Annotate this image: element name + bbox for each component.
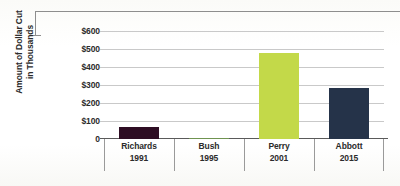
y-axis-tick-label: $200 (56, 99, 100, 108)
y-axis-tick-labels: 0$100$200$300$400$500$600 (56, 28, 100, 146)
category-name: Richards (104, 141, 174, 153)
category-name: Bush (174, 141, 244, 153)
x-axis-category-label: Perry2001 (244, 141, 314, 164)
category-name: Abbott (314, 141, 384, 153)
y-axis-tick-label: $300 (56, 81, 100, 90)
x-axis-category-label: Abbott2015 (314, 141, 384, 164)
y-axis-tick-label: $100 (56, 117, 100, 126)
x-axis-category-label: Bush1995 (174, 141, 244, 164)
y-axis-tick-label: $600 (56, 27, 100, 36)
bar-series (104, 31, 384, 139)
bar-chart: Amount of Dollar Cut in Thousands 0$100$… (0, 0, 400, 186)
y-axis-title: Amount of Dollar Cut in Thousands (14, 0, 38, 106)
category-year: 2001 (244, 153, 314, 165)
y-axis-title-line1: Amount of Dollar Cut (14, 0, 25, 106)
bar (119, 127, 159, 139)
y-axis-tick-label: $400 (56, 63, 100, 72)
category-year: 1995 (174, 153, 244, 165)
y-axis-tick-label: 0 (56, 135, 100, 144)
x-axis-category-labels: Richards1991Bush1995Perry2001Abbott2015 (104, 141, 384, 175)
category-year: 1991 (104, 153, 174, 165)
x-axis-category-label: Richards1991 (104, 141, 174, 164)
category-name: Perry (244, 141, 314, 153)
category-year: 2015 (314, 153, 384, 165)
bar (259, 53, 299, 139)
chart-page: Amount of Dollar Cut in Thousands 0$100$… (0, 0, 400, 186)
y-axis-title-line2: in Thousands (25, 0, 36, 106)
y-axis-tick-label: $500 (56, 45, 100, 54)
bar (329, 88, 369, 139)
